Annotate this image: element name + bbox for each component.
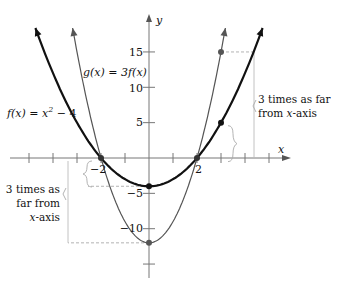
point-f xyxy=(146,183,152,189)
axes xyxy=(10,14,291,278)
left-annotation-line3: x-axis xyxy=(30,211,60,223)
y-tick-label-10: 10 xyxy=(129,82,143,95)
f-left-arrow-icon xyxy=(35,28,42,37)
left-annotation-line2: far from xyxy=(16,197,60,209)
right-annotation-line1: 3 times as far xyxy=(258,93,332,105)
point-g xyxy=(146,240,152,246)
brace-right-large xyxy=(253,100,256,112)
point-both xyxy=(194,155,200,161)
y-tick-label-5: 5 xyxy=(136,116,143,129)
coordinate-plane: y x 15 10 5 −5 −10 −2 2 g(x) = 3f(x) f(x… xyxy=(0,0,339,289)
f-equation-label: f(x) = x2 − 4 xyxy=(6,105,77,120)
point-g xyxy=(218,49,224,55)
brace-right-small xyxy=(228,126,237,162)
point-both xyxy=(98,155,104,161)
brace-left-large xyxy=(63,188,66,200)
y-axis-label: y xyxy=(155,14,163,27)
x-tick-label-neg2: −2 xyxy=(90,163,106,176)
g-equation-label: g(x) = 3f(x) xyxy=(83,66,147,79)
y-tick-label-neg10: −10 xyxy=(120,222,143,235)
y-axis-arrow-icon xyxy=(146,14,152,22)
g-right-arrow-icon xyxy=(221,28,228,36)
f-right-arrow-icon xyxy=(257,28,264,37)
labels: y x 15 10 5 −5 −10 −2 2 g(x) = 3f(x) f(x… xyxy=(6,14,332,235)
x-tick-label-2: 2 xyxy=(195,163,202,176)
point-f xyxy=(218,120,224,126)
x-axis-label: x xyxy=(278,143,285,156)
left-annotation-line1: 3 times as xyxy=(6,183,60,195)
y-tick-label-15: 15 xyxy=(129,46,143,59)
g-left-arrow-icon xyxy=(71,28,78,36)
y-tick-label-neg5: −5 xyxy=(127,187,143,200)
right-annotation-line2: from x-axis xyxy=(258,107,317,119)
